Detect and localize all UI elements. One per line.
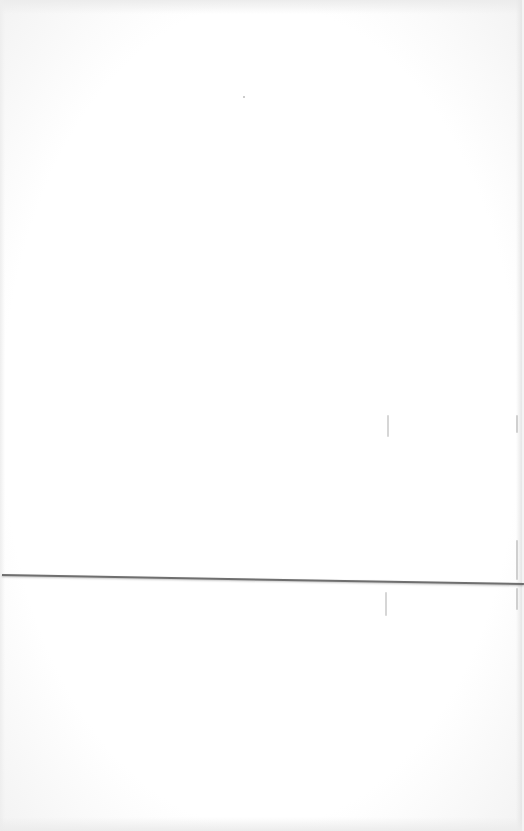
right-edge-mark	[516, 588, 518, 610]
faint-speck	[243, 96, 245, 98]
paper-bottom-edge	[0, 817, 522, 831]
right-edge-mark	[516, 415, 518, 433]
right-edge-mark	[516, 540, 518, 580]
paper-top-edge	[0, 0, 522, 14]
faint-bleed-through-mark	[385, 592, 387, 616]
paper-left-edge	[0, 0, 5, 831]
faint-bleed-through-mark	[387, 415, 389, 437]
horizontal-fold-line	[2, 574, 524, 585]
